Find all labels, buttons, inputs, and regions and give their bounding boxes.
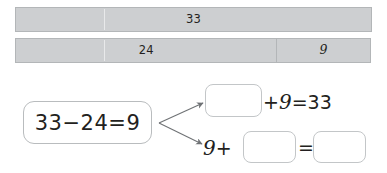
equals-sign-2: =: [298, 138, 314, 157]
answer-blank-sum-2[interactable]: [313, 131, 366, 163]
derived-equation-2-addend: 9: [203, 136, 216, 160]
bar-cell-whole: 33: [15, 7, 372, 32]
answer-blank-addend-2[interactable]: [243, 131, 296, 163]
branch-arrows: [155, 92, 210, 173]
source-equation-card: 33−24=9: [23, 101, 152, 144]
derived-equation-1-sum: 33: [308, 91, 332, 113]
part-whole-bar-model: 33 24 9: [15, 7, 372, 64]
plus-sign-2: +: [216, 137, 232, 159]
equation-work-area: 33−24=9 +9=33 9+ =: [0, 92, 387, 173]
arrow-to-equation-2: [159, 123, 202, 144]
bar-row-parts: 24 9: [15, 38, 372, 63]
bar-cell-part-other-label: 9: [320, 44, 328, 57]
equals-sign-1: =: [292, 91, 308, 113]
derived-equation-1-text: +9=33: [263, 92, 332, 112]
bar-cell-part-known: 24: [15, 38, 277, 63]
derived-equation-1-addend: 9: [279, 90, 292, 114]
bar-row-whole: 33: [15, 7, 372, 32]
source-equation-text: 33−24=9: [35, 111, 141, 135]
derived-equation-2-lead: 9+: [203, 138, 232, 158]
scan-artifact-line: [104, 40, 105, 61]
bar-cell-part-other: 9: [276, 38, 371, 63]
bar-cell-whole-label: 33: [186, 14, 201, 26]
scan-artifact-line: [104, 9, 105, 30]
plus-sign-1: +: [263, 91, 279, 113]
bar-cell-part-known-label: 24: [139, 45, 154, 57]
answer-blank-addend-1[interactable]: [205, 84, 262, 117]
arrow-to-equation-1: [159, 103, 203, 123]
